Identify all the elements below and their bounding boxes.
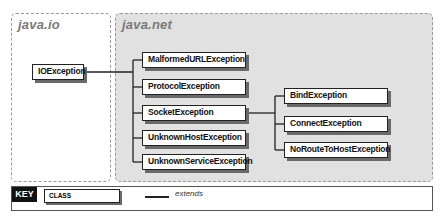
class-noroutetohostexception: NoRouteToHostException	[284, 142, 388, 158]
class-protocolexception: ProtocolException	[142, 79, 246, 95]
class-unknownhostexception: UnknownHostException	[142, 130, 246, 146]
key-label: KEY	[12, 187, 37, 202]
class-ioexception: IOException	[32, 64, 84, 80]
class-socketexception: SocketException	[142, 105, 246, 121]
legend-key: KEY CLASS extends	[11, 186, 433, 211]
key-class-sample: CLASS	[44, 189, 120, 203]
extends-line-icon	[145, 196, 169, 198]
class-bindexception: BindException	[284, 88, 388, 104]
class-connectexception: ConnectException	[284, 116, 388, 132]
class-malformedurlexception: MalformedURLException	[142, 52, 246, 68]
class-unknownserviceexception: UnknownServiceException	[142, 154, 246, 170]
key-extends-label: extends	[175, 189, 203, 198]
